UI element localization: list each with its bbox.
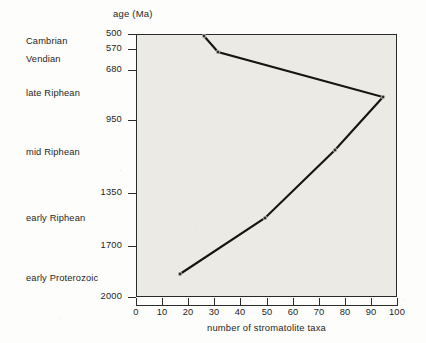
era-label-early-proterozoic: early Proterozoic bbox=[26, 273, 98, 283]
data-point-500ma bbox=[202, 34, 206, 38]
x-tick-mark-80 bbox=[345, 298, 346, 306]
x-tick-label-100: 100 bbox=[382, 307, 412, 317]
data-point-1550ma bbox=[263, 216, 267, 220]
y-tick-label-570: 570 bbox=[82, 43, 122, 53]
data-point-570ma bbox=[216, 50, 220, 54]
y-tick-mark-2000 bbox=[128, 297, 136, 298]
data-point-1150ma bbox=[333, 148, 337, 152]
x-axis-title: number of stromatolite taxa bbox=[136, 322, 397, 333]
scan-speck bbox=[330, 255, 331, 256]
y-tick-mark-570 bbox=[128, 49, 136, 50]
era-label-early-riphean: early Riphean bbox=[26, 213, 85, 223]
y-tick-label-1700: 1700 bbox=[82, 240, 122, 250]
y-tick-label-1350: 1350 bbox=[82, 187, 122, 197]
y-tick-mark-1700 bbox=[128, 246, 136, 247]
data-series-layer bbox=[136, 34, 397, 297]
y-tick-label-950: 950 bbox=[82, 114, 122, 124]
x-tick-mark-10 bbox=[162, 298, 163, 306]
x-tick-mark-20 bbox=[188, 298, 189, 306]
y-tick-mark-1350 bbox=[128, 193, 136, 194]
data-point-800ma bbox=[381, 95, 385, 99]
y-tick-mark-500 bbox=[128, 34, 136, 35]
x-tick-mark-100 bbox=[397, 298, 398, 306]
x-tick-mark-50 bbox=[267, 298, 268, 306]
x-tick-mark-60 bbox=[293, 298, 294, 306]
scan-speck bbox=[258, 96, 259, 97]
y-tick-mark-950 bbox=[128, 120, 136, 121]
scan-speck bbox=[150, 20, 151, 21]
scan-speck bbox=[250, 300, 251, 301]
era-label-cambrian: Cambrian bbox=[26, 36, 68, 46]
y-axis-title: age (Ma) bbox=[113, 8, 153, 19]
x-tick-mark-40 bbox=[240, 298, 241, 306]
y-tick-mark-680 bbox=[128, 70, 136, 71]
era-label-late-riphean: late Riphean bbox=[26, 88, 80, 98]
scan-speck bbox=[404, 300, 405, 301]
stromatolite-taxa-line bbox=[180, 36, 383, 274]
x-tick-mark-0 bbox=[136, 298, 137, 306]
data-point-1900ma bbox=[178, 272, 182, 276]
x-tick-mark-30 bbox=[214, 298, 215, 306]
era-label-vendian: Vendian bbox=[26, 54, 61, 64]
y-tick-label-500: 500 bbox=[82, 28, 122, 38]
x-tick-label-40: 40 bbox=[225, 307, 255, 317]
y-tick-label-2000: 2000 bbox=[82, 291, 122, 301]
y-tick-label-680: 680 bbox=[82, 64, 122, 74]
x-tick-mark-90 bbox=[371, 298, 372, 306]
x-tick-mark-70 bbox=[319, 298, 320, 306]
era-label-mid-riphean: mid Riphean bbox=[26, 147, 80, 157]
